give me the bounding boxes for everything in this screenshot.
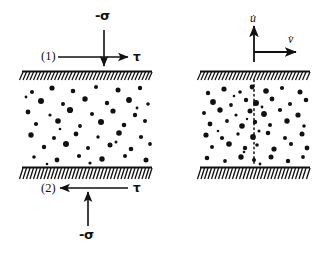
granular-particle [52, 136, 56, 140]
granular-particle [78, 124, 82, 128]
granular-particle [253, 100, 259, 106]
granular-particle [269, 155, 274, 160]
granular-particle [208, 122, 213, 127]
granular-particle [116, 88, 121, 93]
granular-particle [255, 143, 259, 147]
granular-particle [304, 98, 309, 103]
granular-particle [133, 113, 137, 117]
granular-particle [238, 90, 242, 94]
granular-particle [210, 99, 216, 105]
granular-particle [252, 158, 256, 162]
granular-particle [99, 156, 104, 161]
granular-particle [298, 90, 303, 95]
granular-particle [205, 156, 210, 161]
granular-particle [243, 146, 247, 150]
granular-particle [28, 132, 33, 137]
granular-particle [243, 151, 246, 154]
granular-particle [238, 154, 243, 159]
left-particle-field [25, 85, 152, 165]
granular-particle [148, 142, 152, 146]
granular-particle [239, 123, 245, 129]
granular-particle [220, 136, 224, 140]
granular-particle [263, 88, 269, 94]
granular-particle [206, 91, 210, 95]
granular-particle [26, 110, 31, 115]
granular-particle [223, 159, 227, 163]
granular-particle [55, 158, 60, 163]
right-top-plate [198, 72, 311, 81]
granular-particle [259, 163, 262, 166]
granular-particle [234, 113, 237, 116]
granular-particle [288, 102, 292, 106]
right-panel-group [198, 26, 311, 179]
granular-particle [86, 146, 90, 150]
granular-particle [233, 95, 236, 98]
granular-particle [139, 135, 143, 139]
granular-particle [94, 85, 98, 89]
granular-particle [67, 107, 73, 113]
granular-particle [278, 108, 282, 112]
granular-particle [229, 103, 233, 107]
granular-particle [74, 132, 79, 137]
granular-particle [49, 85, 54, 90]
bottom-shear-stress-label: τ [133, 182, 141, 194]
granular-particle [55, 118, 61, 124]
granular-particle [34, 122, 38, 126]
granular-particle [108, 143, 113, 148]
granular-particle [236, 132, 239, 135]
granular-particle [115, 141, 118, 144]
granular-particle [284, 118, 289, 123]
granular-particle [63, 141, 69, 147]
vertical-velocity-label: u̇ [250, 12, 256, 24]
granular-particle [123, 154, 127, 158]
granular-particle [217, 130, 220, 133]
granular-particle [143, 119, 147, 123]
granular-particle [122, 123, 127, 128]
granular-particle [202, 111, 206, 115]
granular-particle [88, 161, 91, 164]
granular-particle [253, 120, 257, 124]
top-shear-stress-label: τ [133, 51, 141, 63]
granular-particle [305, 146, 310, 151]
granular-particle [25, 96, 28, 99]
granular-particle [90, 112, 94, 116]
granular-particle [136, 107, 139, 110]
granular-particle [71, 89, 76, 94]
granular-particle [30, 90, 34, 94]
granular-particle [226, 141, 232, 147]
right-particle-field [202, 85, 309, 166]
granular-particle [42, 145, 46, 149]
granular-particle [46, 163, 49, 166]
horizontal-velocity-label: v̇ [288, 33, 293, 45]
top-normal-stress-label: -σ [95, 9, 110, 22]
granular-particle [61, 102, 65, 106]
top-plate-index-label: (1) [41, 50, 56, 63]
granular-particle [203, 132, 208, 137]
granular-particle [38, 98, 44, 104]
bottom-plate-index-label: (2) [41, 182, 56, 195]
diagram-vector-layer [0, 0, 330, 254]
granular-particle [261, 106, 264, 109]
granular-particle [250, 85, 255, 90]
left-bottom-plate [20, 168, 153, 180]
figure-canvas: -σ (1) τ (2) τ -σ u̇ v̇ [0, 0, 330, 254]
granular-particle [271, 146, 276, 151]
granular-particle [129, 147, 134, 152]
granular-particle [280, 86, 284, 90]
left-top-plate [20, 72, 153, 81]
granular-particle [268, 123, 272, 127]
granular-particle [77, 154, 81, 158]
granular-particle [261, 111, 267, 117]
granular-particle [98, 119, 104, 125]
granular-particle [221, 86, 226, 91]
granular-particle [266, 131, 271, 136]
granular-particle [126, 97, 132, 103]
granular-particle [96, 135, 99, 138]
granular-particle [116, 130, 122, 136]
right-bottom-plate [198, 168, 311, 180]
granular-particle [302, 124, 306, 128]
granular-particle [270, 97, 275, 102]
granular-particle [244, 98, 248, 102]
granular-particle [246, 118, 248, 120]
granular-particle [146, 102, 150, 106]
